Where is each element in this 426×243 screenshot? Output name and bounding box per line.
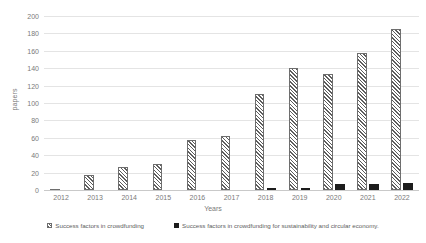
bar[interactable] bbox=[323, 74, 333, 190]
x-tick-label: 2017 bbox=[214, 194, 248, 201]
bar[interactable] bbox=[301, 188, 311, 190]
bar[interactable] bbox=[335, 184, 345, 190]
bar-group bbox=[255, 16, 277, 190]
bar[interactable] bbox=[267, 188, 277, 190]
legend-swatch-icon bbox=[174, 223, 179, 228]
bar-group bbox=[187, 16, 209, 190]
bar-chart: papers 020406080100120140160180200 20122… bbox=[0, 0, 426, 243]
bar-group bbox=[118, 16, 140, 190]
x-tick-label: 2015 bbox=[146, 194, 180, 201]
y-tick-label: 180 bbox=[27, 30, 39, 37]
y-tick-label: 100 bbox=[27, 100, 39, 107]
x-tick-label: 2018 bbox=[249, 194, 283, 201]
gridline bbox=[44, 190, 419, 191]
x-tick-label: 2020 bbox=[317, 194, 351, 201]
legend-label: Success factors in crowdfunding for sust… bbox=[182, 222, 379, 229]
bar-group bbox=[50, 16, 72, 190]
y-tick-label: 0 bbox=[35, 187, 39, 194]
x-tick-label: 2019 bbox=[283, 194, 317, 201]
legend-entry[interactable]: Success factors in crowdfunding for sust… bbox=[174, 222, 379, 229]
bar-group bbox=[391, 16, 413, 190]
bar[interactable] bbox=[369, 184, 379, 190]
y-tick-label: 200 bbox=[27, 13, 39, 20]
y-tick-label: 120 bbox=[27, 82, 39, 89]
x-tick-label: 2022 bbox=[385, 194, 419, 201]
bar-group bbox=[153, 16, 175, 190]
x-tick-label: 2012 bbox=[44, 194, 78, 201]
y-tick-label: 80 bbox=[31, 117, 39, 124]
bar[interactable] bbox=[50, 189, 60, 190]
bar-group bbox=[84, 16, 106, 190]
x-tick-label: 2016 bbox=[180, 194, 214, 201]
plot-area: 020406080100120140160180200 bbox=[44, 16, 419, 190]
bar[interactable] bbox=[84, 175, 94, 190]
y-tick-label: 40 bbox=[31, 152, 39, 159]
bar[interactable] bbox=[403, 183, 413, 190]
x-tick-label: 2014 bbox=[112, 194, 146, 201]
bar-group bbox=[221, 16, 243, 190]
y-tick-label: 140 bbox=[27, 65, 39, 72]
x-tick-label: 2013 bbox=[78, 194, 112, 201]
y-tick-label: 20 bbox=[31, 169, 39, 176]
chart-legend: Success factors in crowdfundingSuccess f… bbox=[0, 222, 426, 229]
bar[interactable] bbox=[255, 94, 265, 190]
bar[interactable] bbox=[221, 136, 231, 190]
bar[interactable] bbox=[153, 164, 163, 190]
bar[interactable] bbox=[118, 167, 128, 190]
bar-group bbox=[289, 16, 311, 190]
y-tick-label: 60 bbox=[31, 134, 39, 141]
bar-group bbox=[357, 16, 379, 190]
bar[interactable] bbox=[289, 68, 299, 190]
x-tick-label: 2021 bbox=[351, 194, 385, 201]
legend-swatch-icon bbox=[47, 223, 52, 228]
bar[interactable] bbox=[391, 29, 401, 190]
bars-layer bbox=[44, 16, 419, 190]
bar[interactable] bbox=[357, 53, 367, 190]
legend-entry[interactable]: Success factors in crowdfunding bbox=[47, 222, 144, 229]
y-tick-label: 160 bbox=[27, 47, 39, 54]
bar-group bbox=[323, 16, 345, 190]
legend-label: Success factors in crowdfunding bbox=[55, 222, 144, 229]
x-axis-title: Years bbox=[0, 205, 426, 212]
bar[interactable] bbox=[187, 140, 197, 190]
y-axis-title: papers bbox=[11, 70, 18, 130]
